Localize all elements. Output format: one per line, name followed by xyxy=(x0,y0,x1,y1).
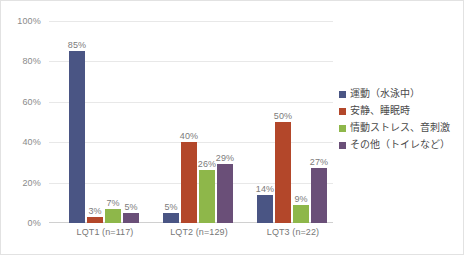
bar-value-label: 5% xyxy=(164,202,177,212)
legend-label: その他（トイレなど） xyxy=(350,140,450,150)
bar-value-label: 40% xyxy=(180,131,198,141)
bar-lqt2-series4[interactable]: 29% xyxy=(217,164,233,223)
bar-value-label: 3% xyxy=(88,206,101,216)
legend-item-emotional-stress[interactable]: 情動ストレス、音刺激 xyxy=(339,123,463,133)
legend-swatch-icon xyxy=(339,91,346,98)
bar-lqt3-series3[interactable]: 9% xyxy=(293,205,309,223)
bar-lqt2-series3[interactable]: 26% xyxy=(199,170,215,223)
bar-value-label: 9% xyxy=(294,194,307,204)
legend-swatch-icon xyxy=(339,142,346,149)
chart-container: 0% 20% 40% 60% 80% 100% 85% 3% 7% 5% xyxy=(0,0,464,255)
legend-item-rest-sleep[interactable]: 安静、睡眠時 xyxy=(339,106,463,116)
x-axis-label-lqt3: LQT3 (n=22) xyxy=(253,227,333,237)
bar-lqt3-series1[interactable]: 14% xyxy=(257,195,273,223)
legend-label: 情動ストレス、音刺激 xyxy=(350,123,450,133)
y-axis-tick-0: 0% xyxy=(1,218,41,228)
bar-value-label: 7% xyxy=(106,198,119,208)
legend-label: 安静、睡眠時 xyxy=(350,106,410,116)
bar-value-label: 50% xyxy=(274,111,292,121)
bar-value-label: 27% xyxy=(310,157,328,167)
plot-area: 85% 3% 7% 5% 5% 40% 26% 29% xyxy=(49,21,333,223)
y-axis-tick-40: 40% xyxy=(1,137,41,147)
legend-label: 運動（水泳中） xyxy=(350,89,420,99)
y-axis-tick-100: 100% xyxy=(1,16,41,26)
bar-value-label: 14% xyxy=(256,184,274,194)
x-axis-label-lqt1: LQT1 (n=117) xyxy=(65,227,145,237)
bar-value-label: 26% xyxy=(198,159,216,169)
bar-group-lqt2: 5% 40% 26% 29% xyxy=(159,21,239,223)
bar-lqt3-series4[interactable]: 27% xyxy=(311,168,327,223)
bar-group-lqt1: 85% 3% 7% 5% xyxy=(65,21,145,223)
bar-lqt1-series3[interactable]: 7% xyxy=(105,209,121,223)
bar-group-lqt3: 14% 50% 9% 27% xyxy=(253,21,333,223)
bar-value-label: 5% xyxy=(124,202,137,212)
bar-value-label: 29% xyxy=(216,153,234,163)
bar-lqt1-series2[interactable]: 3% xyxy=(87,217,103,223)
bar-lqt1-series1[interactable]: 85% xyxy=(69,51,85,223)
y-axis-tick-80: 80% xyxy=(1,56,41,66)
legend-swatch-icon xyxy=(339,125,346,132)
bar-lqt2-series1[interactable]: 5% xyxy=(163,213,179,223)
legend-item-exercise[interactable]: 運動（水泳中） xyxy=(339,89,463,99)
y-axis-tick-20: 20% xyxy=(1,178,41,188)
bar-value-label: 85% xyxy=(68,40,86,50)
legend-swatch-icon xyxy=(339,108,346,115)
bar-lqt1-series4[interactable]: 5% xyxy=(123,213,139,223)
chart-legend: 運動（水泳中） 安静、睡眠時 情動ストレス、音刺激 その他（トイレなど） xyxy=(339,89,463,157)
legend-item-other[interactable]: その他（トイレなど） xyxy=(339,140,463,150)
y-axis-tick-60: 60% xyxy=(1,97,41,107)
bar-lqt2-series2[interactable]: 40% xyxy=(181,142,197,223)
bar-lqt3-series2[interactable]: 50% xyxy=(275,122,291,223)
x-axis-label-lqt2: LQT2 (n=129) xyxy=(159,227,239,237)
